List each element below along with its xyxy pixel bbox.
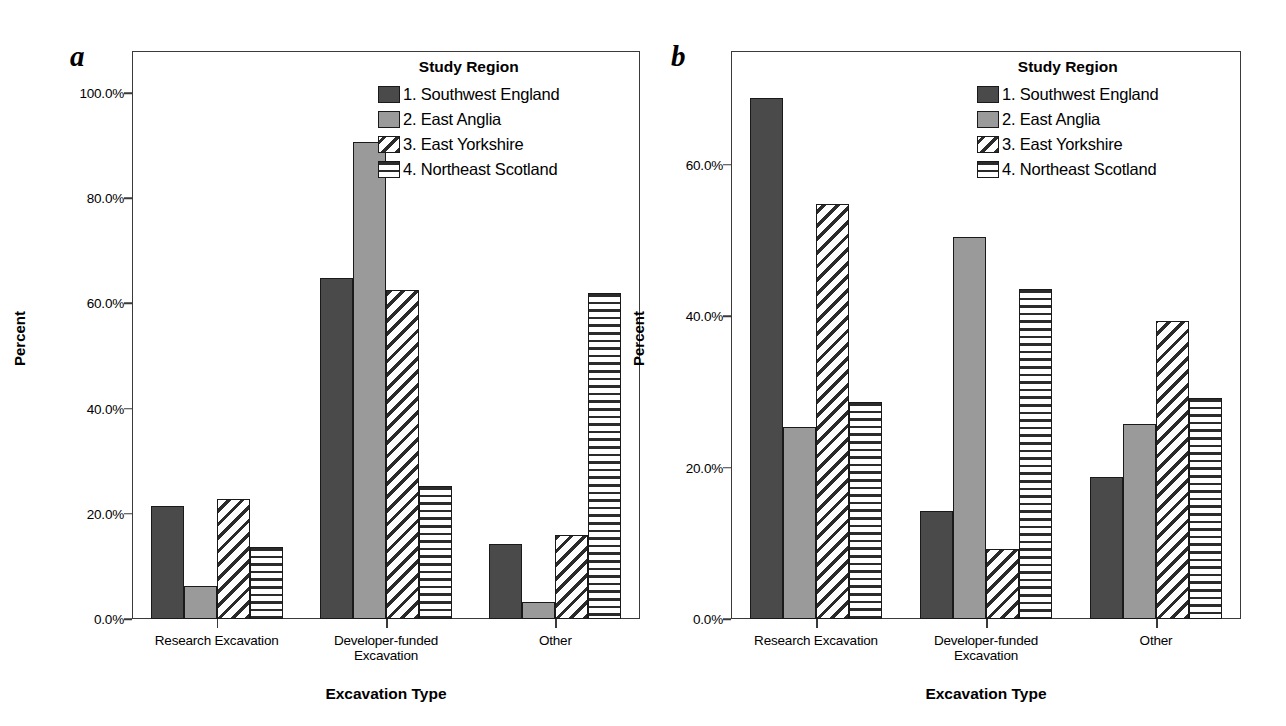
bar-b-g3-s4	[1189, 398, 1222, 619]
bar-a-g3-s1	[489, 544, 522, 619]
bar-a-g3-s2	[522, 602, 555, 619]
y-axis-tick-label: 80.0%	[68, 191, 124, 206]
bar-b-g3-s1	[1090, 477, 1123, 619]
legend-swatch-solid-light-icon	[977, 111, 999, 128]
bar-a-g1-s3	[217, 499, 250, 619]
y-axis-tick-mark	[723, 315, 731, 317]
y-axis-tick-label: 20.0%	[667, 460, 723, 475]
x-axis-tick-mark	[986, 619, 988, 628]
legend-item-3: 3. East Yorkshire	[977, 133, 1159, 155]
y-axis-tick-label: 20.0%	[68, 506, 124, 521]
x-axis-tick-label: Other	[1051, 633, 1261, 648]
legend-item-label: 3. East Yorkshire	[1002, 135, 1122, 154]
legend-item-label: 2. East Anglia	[1002, 110, 1100, 129]
bar-a-g3-s3	[555, 535, 588, 619]
x-axis-tick-mark	[217, 619, 219, 628]
legend-item-2: 2. East Anglia	[378, 108, 560, 130]
bar-a-g2-s1	[320, 278, 353, 619]
y-axis-tick-mark	[723, 618, 731, 620]
y-axis-tick-label: 40.0%	[667, 309, 723, 324]
bar-b-g2-s3	[986, 549, 1019, 619]
legend-item-label: 4. Northeast Scotland	[403, 160, 557, 179]
legend-item-4: 4. Northeast Scotland	[977, 158, 1159, 180]
y-axis-tick-mark	[723, 467, 731, 469]
legend-swatch-diagonal-hatch-icon	[977, 136, 999, 153]
panel-b: b Percent 0.0%20.0%40.0%60.0% Research E…	[643, 0, 1286, 726]
y-axis-tick-label: 0.0%	[667, 612, 723, 627]
x-axis-title-b: Excavation Type	[925, 685, 1046, 703]
bar-a-g1-s4	[250, 547, 283, 619]
y-axis-tick-mark	[124, 303, 132, 305]
bar-b-g3-s2	[1123, 424, 1156, 619]
y-axis-tick-label: 100.0%	[68, 86, 124, 101]
bar-b-g3-s3	[1156, 321, 1189, 619]
x-axis-tick-mark	[386, 619, 388, 628]
x-axis-tick-mark	[555, 619, 557, 628]
panel-letter-b: b	[671, 40, 686, 73]
legend-item-label: 4. Northeast Scotland	[1002, 160, 1156, 179]
legend-item-label: 1. Southwest England	[1002, 85, 1159, 104]
legend-item-3: 3. East Yorkshire	[378, 133, 560, 155]
y-axis-tick-label: 60.0%	[68, 296, 124, 311]
panel-letter-a: a	[70, 40, 85, 73]
legend-item-label: 2. East Anglia	[403, 110, 501, 129]
y-axis-tick-mark	[124, 618, 132, 620]
bar-b-g2-s1	[920, 511, 953, 619]
bar-b-g1-s4	[849, 402, 882, 619]
legend-swatch-horizontal-hatch-icon	[378, 161, 400, 178]
bar-a-g2-s4	[419, 486, 452, 619]
legend-item-1: 1. Southwest England	[977, 83, 1159, 105]
y-axis-tick-mark	[124, 92, 132, 94]
bar-a-g1-s1	[151, 506, 184, 619]
legend-item-1: 1. Southwest England	[378, 83, 560, 105]
legend-item-label: 1. Southwest England	[403, 85, 560, 104]
bar-a-g1-s2	[184, 586, 217, 619]
legend-b: Study Region 1. Southwest England2. East…	[977, 58, 1159, 183]
y-axis-tick-mark	[124, 513, 132, 515]
x-axis-tick-label: Other	[451, 633, 660, 648]
y-axis-tick-label: 0.0%	[68, 612, 124, 627]
y-axis-tick-mark	[124, 408, 132, 410]
y-axis-tick-mark	[124, 198, 132, 200]
x-axis-tick-mark	[816, 619, 818, 628]
legend-item-label: 3. East Yorkshire	[403, 135, 523, 154]
y-axis-tick-label: 60.0%	[667, 157, 723, 172]
figure-two-panel-bar-charts: a Percent 0.0%20.0%40.0%60.0%80.0%100.0%…	[0, 0, 1286, 726]
y-axis-tick-mark	[723, 164, 731, 166]
legend-title-b: Study Region	[977, 58, 1159, 76]
legend-title-a: Study Region	[378, 58, 560, 76]
legend-swatch-diagonal-hatch-icon	[378, 136, 400, 153]
legend-a: Study Region 1. Southwest England2. East…	[378, 58, 560, 183]
bar-a-g3-s4	[588, 293, 621, 619]
panel-a: a Percent 0.0%20.0%40.0%60.0%80.0%100.0%…	[0, 0, 643, 726]
legend-item-2: 2. East Anglia	[977, 108, 1159, 130]
bar-b-g1-s3	[816, 204, 849, 619]
bar-b-g1-s1	[750, 98, 783, 619]
y-axis-tick-label: 40.0%	[68, 401, 124, 416]
legend-swatch-solid-light-icon	[378, 111, 400, 128]
legend-swatch-solid-dark-icon	[977, 86, 999, 103]
bar-b-g1-s2	[783, 427, 816, 619]
legend-swatch-horizontal-hatch-icon	[977, 161, 999, 178]
x-axis-title-a: Excavation Type	[325, 685, 446, 703]
bar-b-g2-s4	[1019, 289, 1052, 619]
x-axis-tick-mark	[1156, 619, 1158, 628]
bar-b-g2-s2	[953, 237, 986, 619]
legend-item-4: 4. Northeast Scotland	[378, 158, 560, 180]
bar-a-g2-s2	[353, 142, 386, 619]
y-axis-title-b: Percent	[630, 311, 647, 366]
legend-swatch-solid-dark-icon	[378, 86, 400, 103]
y-axis-title-a: Percent	[11, 311, 28, 366]
bar-a-g2-s3	[386, 290, 419, 619]
